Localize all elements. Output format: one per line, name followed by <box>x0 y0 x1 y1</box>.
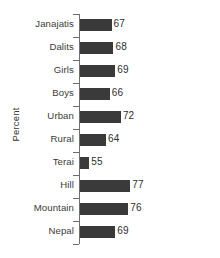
bar <box>80 65 115 77</box>
bar <box>80 226 115 238</box>
plot-area: Janajatis67Dalits68Girls69Boys66Urban72R… <box>0 12 220 248</box>
bar-value-label: 64 <box>108 133 119 144</box>
category-label: Mountain <box>0 202 74 213</box>
bar-value-label: 55 <box>91 156 102 167</box>
bar-value-label: 77 <box>132 179 143 190</box>
bar <box>80 134 106 146</box>
bar-value-label: 72 <box>123 110 134 121</box>
bar <box>80 203 128 215</box>
bar <box>80 157 89 169</box>
bar-row: Boys66 <box>0 83 220 106</box>
axis-tick <box>73 244 79 245</box>
bar-row: Terai55 <box>0 152 220 175</box>
bar-row: Rural64 <box>0 129 220 152</box>
category-label: Terai <box>0 156 74 167</box>
bar-value-label: 76 <box>130 202 141 213</box>
bar-row: Girls69 <box>0 60 220 83</box>
bar-value-label: 67 <box>114 18 125 29</box>
category-label: Nepal <box>0 225 74 236</box>
bar <box>80 88 110 100</box>
category-label: Hill <box>0 179 74 190</box>
category-label: Boys <box>0 87 74 98</box>
bar <box>80 42 113 54</box>
bar <box>80 111 121 123</box>
bar-value-label: 66 <box>112 87 123 98</box>
bar-row: Urban72 <box>0 106 220 129</box>
bar-row: Hill77 <box>0 175 220 198</box>
bar-row: Dalits68 <box>0 37 220 60</box>
category-label: Urban <box>0 110 74 121</box>
bar-value-label: 69 <box>117 225 128 236</box>
category-label: Dalits <box>0 41 74 52</box>
category-label: Janajatis <box>0 18 74 29</box>
bar <box>80 180 130 192</box>
bar-row: Mountain76 <box>0 198 220 221</box>
bar-row: Janajatis67 <box>0 14 220 37</box>
category-label: Rural <box>0 133 74 144</box>
bar-chart: Percent Janajatis67Dalits68Girls69Boys66… <box>0 0 220 258</box>
bar-row: Nepal69 <box>0 221 220 244</box>
bar <box>80 19 112 31</box>
bar-value-label: 69 <box>117 64 128 75</box>
bar-value-label: 68 <box>115 41 126 52</box>
category-label: Girls <box>0 64 74 75</box>
